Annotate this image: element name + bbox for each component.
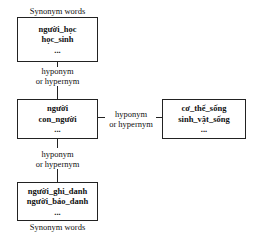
edge-label: hyponym <box>17 149 98 159</box>
edge-label: hyponym <box>17 66 98 76</box>
synonym-box-bottom: người_ghi_danh người_báo_danh ... <box>17 182 98 221</box>
hypernym-box-right: cơ_thể_sống sinh_vật_sống ... <box>162 99 246 139</box>
term: cơ_thể_sống <box>182 103 227 114</box>
term: người <box>47 103 68 114</box>
term: người_ghi_danh <box>28 186 87 197</box>
term: con_người <box>38 114 76 125</box>
synonym-box-top: người_học học_sinh ... <box>17 17 98 62</box>
term: ... <box>54 45 60 56</box>
edge-label: or hypernym <box>17 76 98 86</box>
top-synonym-caption: Synonym words <box>17 6 98 16</box>
edge-line <box>57 86 58 99</box>
edge-label: or hypernym <box>17 159 98 169</box>
term: sinh_vật_sống <box>178 114 230 125</box>
edge-label: hyponym <box>105 109 157 119</box>
edge-line <box>98 117 105 118</box>
edge-line <box>57 139 58 148</box>
term: ... <box>54 124 60 135</box>
term: ... <box>54 207 60 218</box>
edge-line <box>57 169 58 182</box>
bottom-synonym-caption: Synonym words <box>17 222 98 232</box>
term: người_báo_danh <box>27 196 88 207</box>
center-concept-box: người con_người ... <box>17 99 98 139</box>
term: học_sinh <box>41 34 73 45</box>
edge-label: or hypernym <box>105 119 157 129</box>
term: ... <box>201 124 207 135</box>
term: người_học <box>38 24 76 35</box>
